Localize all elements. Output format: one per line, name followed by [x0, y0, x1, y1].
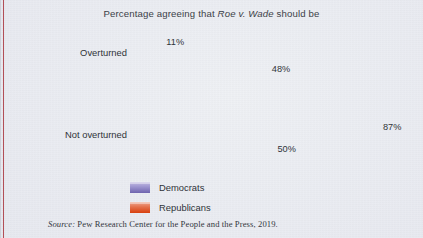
bar-democrats-not-overturned	[130, 113, 378, 129]
source-label: Source:	[48, 219, 75, 229]
legend-swatch-democrats	[130, 182, 150, 193]
value-label-democrats-not-overturned: 87%	[383, 122, 401, 132]
value-label-republicans-overturned: 48%	[272, 64, 290, 74]
bar-democrats-overturned	[130, 33, 161, 49]
legend-swatch-republicans	[130, 202, 150, 213]
legend-label-republicans: Republicans	[159, 202, 211, 213]
bar-republicans-not-overturned	[130, 136, 273, 152]
legend-item-republicans: Republicans	[130, 201, 211, 213]
value-label-democrats-overturned: 11%	[166, 37, 184, 47]
category-label-not-overturned: Not overturned	[65, 129, 127, 140]
source-text: Pew Research Center for the People and t…	[75, 219, 278, 229]
value-label-republicans-not-overturned: 50%	[278, 144, 296, 154]
bar-chart-plot-area: Overturned 11% 48% Not overturned 87%	[0, 0, 423, 238]
legend-label-democrats: Democrats	[159, 182, 204, 193]
legend-item-democrats: Democrats	[130, 181, 204, 193]
source-note: Source: Pew Research Center for the Peop…	[48, 219, 278, 229]
bar-republicans-overturned	[130, 56, 267, 72]
category-label-overturned: Overturned	[80, 47, 127, 58]
